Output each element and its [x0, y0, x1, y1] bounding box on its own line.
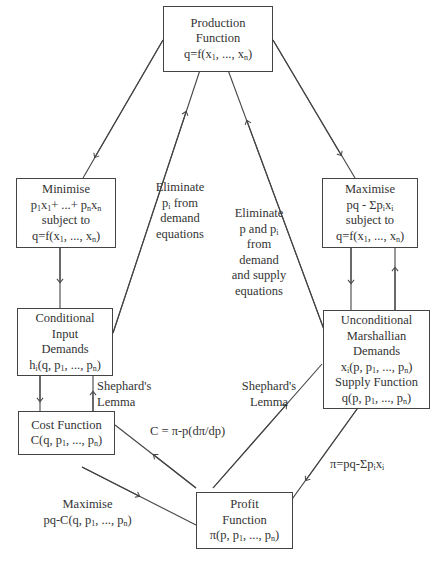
node-line: Unconditional [341, 313, 413, 329]
node-line: p1x1+ ...+ pnxn [31, 198, 102, 214]
node-line: Production [191, 16, 246, 32]
maximise-profit-node: Maximise pq - Σpixi subject to q=f(x1, .… [322, 178, 418, 248]
label-eliminate-p-and-pi: Eliminate p and pi from demand and suppl… [224, 206, 294, 299]
node-line: Minimise [42, 182, 90, 198]
production-function-node: Production Function q=f(x1, ..., xn) [163, 6, 273, 72]
conditional-input-demands-node: Conditional Input Demands hi(q, p1, ...,… [17, 308, 113, 376]
node-line: q=f(x1, ..., xn) [184, 47, 252, 63]
label-shephards-lemma-left: Shephard's Lemma [97, 379, 159, 410]
node-line: Cost Function [31, 418, 102, 434]
node-line: Conditional [35, 311, 94, 327]
node-line: Maximise [345, 182, 395, 198]
node-line: xi(p, p1, ..., pn) [341, 360, 413, 376]
node-line: Profit [230, 497, 258, 513]
node-line: Supply Function [335, 375, 418, 391]
node-line: q=f(x1, ..., xn) [336, 229, 404, 245]
label-profit-definition: π=pq-Σpixi [330, 457, 410, 473]
profit-function-node: Profit Function π(p, p1, ..., pn) [196, 492, 293, 549]
label-shephards-lemma-right: Shephard's Lemma [238, 379, 300, 410]
node-line: subject to [346, 213, 394, 229]
node-line: π(p, p1, ..., pn) [210, 528, 280, 544]
node-line: Input [52, 327, 78, 343]
unconditional-demands-node: Unconditional Marshallian Demands xi(p, … [323, 310, 430, 409]
label-cost-from-profit: C = π-p(dπ/dp) [150, 424, 240, 440]
node-line: q=f(x1, ..., xn) [32, 229, 100, 245]
label-eliminate-pi: Eliminate pi from demand equations [145, 180, 215, 242]
diagram-edges [0, 0, 435, 564]
node-line: Demands [353, 344, 400, 360]
node-line: hi(q, p1, ..., pn) [29, 358, 101, 374]
node-line: Function [222, 513, 266, 529]
node-line: Demands [41, 342, 88, 358]
node-line: pq - Σpixi [346, 198, 393, 214]
node-line: subject to [42, 213, 90, 229]
node-line: q(p, p1, ..., pn) [342, 391, 411, 407]
node-line: Function [196, 31, 240, 47]
label-maximise-pq-minus-cost: Maximise pq-C(q, p1, ..., pn) [30, 497, 145, 528]
node-line: Marshallian [347, 329, 407, 345]
cost-function-node: Cost Function C(q, p1, ..., pn) [18, 411, 115, 455]
minimise-cost-node: Minimise p1x1+ ...+ pnxn subject to q=f(… [16, 178, 116, 248]
node-line: C(q, p1, ..., pn) [31, 433, 103, 449]
